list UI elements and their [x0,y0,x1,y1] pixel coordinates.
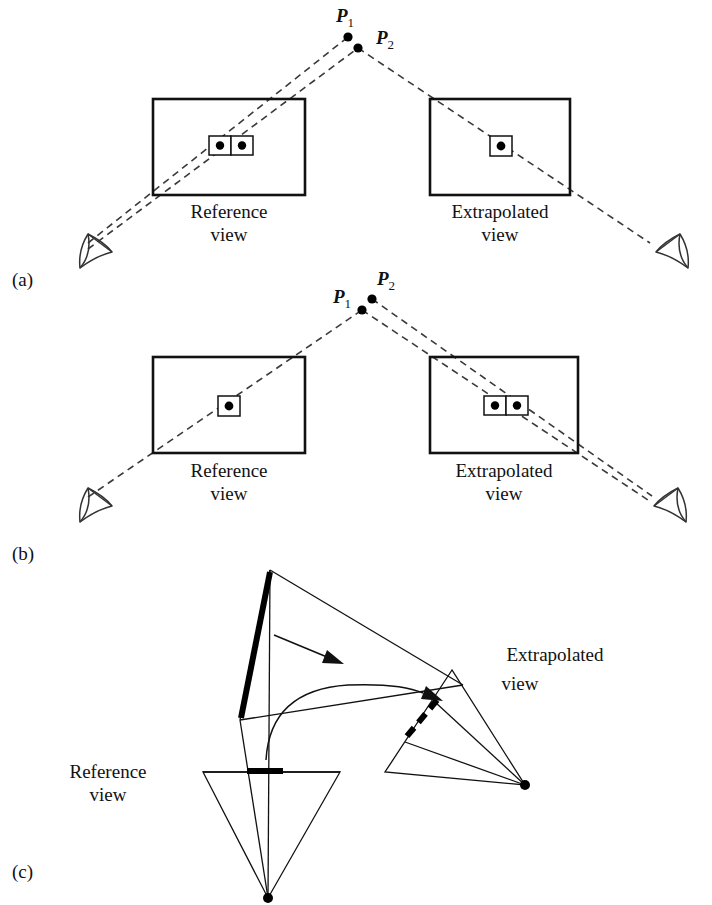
panel-c-caption: (c) [12,861,33,883]
scene-point-p2-label: P2 [375,27,394,52]
panel-b-extrapolated-projection [484,396,528,415]
scene-point-p2-dot [353,43,362,52]
panel-c-reference-label-line1: Reference [70,761,147,782]
projection-dot [216,141,224,149]
panel-a-extrapolated-label-line1: Extrapolated [451,201,549,222]
projection-dot [491,401,499,409]
panel-a: P1 P2 Reference view Extrapolated view (… [12,5,688,291]
panel-c: Reference view Extrapolated view (c) [12,570,604,903]
panel-c-extrapolated-label-line1: Extrapolated [506,644,604,665]
panel-b-reference-projection [218,396,240,416]
panel-c-extrapolated-label-line2: view [502,673,539,694]
scene-point-p2-dot [367,294,376,303]
panel-b-left-camera-icon [80,488,112,522]
panel-b-reference-label-line1: Reference [191,460,268,481]
panel-b: P1 P2 Reference view Extrapolated view (… [12,268,686,565]
panel-a-reference-label-line2: view [211,224,248,245]
panel-b-extrapolated-label-line1: Extrapolated [455,460,553,481]
panel-a-left-camera-icon [80,234,112,268]
scene-point-p1-label: P1 [332,286,351,311]
panel-b-reference-label-line2: view [211,483,248,504]
panel-a-extrapolated-projection [490,136,512,156]
extrapolated-projected-segment-gaps [403,700,437,741]
projection-dot [497,142,506,151]
scene-point-p1-label: P1 [335,5,354,30]
figure-svg: P1 P2 Reference view Extrapolated view (… [0,0,712,905]
panel-a-reference-projection [209,136,253,155]
projection-dot [513,401,521,409]
figure-canvas: P1 P2 Reference view Extrapolated view (… [0,0,712,905]
panel-b-caption: (b) [12,543,34,565]
projection-dot [238,141,246,149]
panel-a-right-camera-icon [656,234,688,268]
panel-a-reference-label-line1: Reference [191,201,268,222]
panel-c-curved-arrow [266,685,443,760]
panel-c-reference-label-line2: view [90,784,127,805]
scene-point-p1-dot [357,305,366,314]
scene-point-p2-label: P2 [376,268,395,293]
panel-b-extrapolated-label-line2: view [486,483,523,504]
scene-point-p1-dot [343,32,352,41]
panel-b-right-camera-icon [654,488,686,522]
extrapolated-camera-center [520,780,530,790]
panel-a-caption: (a) [12,269,33,291]
panel-a-extrapolated-label-line2: view [482,224,519,245]
reference-camera-center [263,893,273,903]
panel-c-straight-arrow [274,635,344,664]
projection-dot [225,402,234,411]
surface-highlighted-edge [241,572,270,718]
